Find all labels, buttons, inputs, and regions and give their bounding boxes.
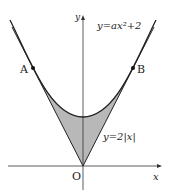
point-b-label: B bbox=[137, 63, 145, 76]
point-a-label: A bbox=[19, 63, 29, 76]
point-a bbox=[31, 66, 35, 70]
y-axis-label: y bbox=[74, 12, 81, 22]
parabola-equation-label: y=ax²+2 bbox=[96, 20, 141, 31]
origin-label: O bbox=[72, 170, 81, 183]
y-axis-arrow-icon bbox=[81, 15, 85, 20]
x-axis-arrow-icon bbox=[157, 164, 162, 168]
graph: A B y x O y=ax²+2 y=2|x| bbox=[0, 0, 171, 192]
point-b bbox=[131, 66, 135, 70]
abs-equation-label: y=2|x| bbox=[102, 131, 136, 143]
x-axis-label: x bbox=[153, 171, 159, 182]
